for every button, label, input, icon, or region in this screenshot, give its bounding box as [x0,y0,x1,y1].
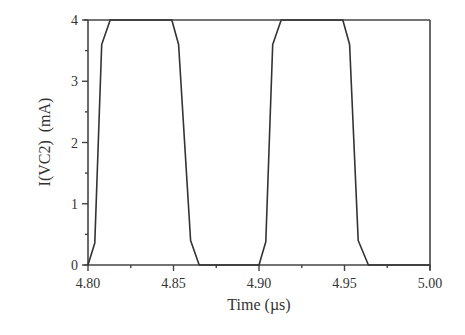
y-tick-label: 1 [71,197,78,212]
x-tick-label: 4.95 [332,276,357,291]
x-tick-label: 4.90 [247,276,272,291]
y-axis-title: I(VC2) (mA) [36,98,54,187]
plot-axes [84,20,430,270]
y-tick-label: 0 [71,258,78,273]
axis-ticks [82,20,430,271]
x-axis-title: Time (µs) [227,296,290,314]
y-tick-label: 3 [71,74,78,89]
i-vc2-waveform-line [88,20,430,265]
current-waveform-chart: 4.804.854.904.955.00 01234 Time (µs) I(V… [0,0,465,335]
x-tick-label: 4.80 [76,276,101,291]
x-tick-labels: 4.804.854.904.955.00 [76,276,443,291]
y-tick-label: 2 [71,136,78,151]
x-tick-label: 4.85 [161,276,186,291]
y-tick-labels: 01234 [71,13,78,273]
y-tick-label: 4 [71,13,78,28]
x-tick-label: 5.00 [418,276,443,291]
